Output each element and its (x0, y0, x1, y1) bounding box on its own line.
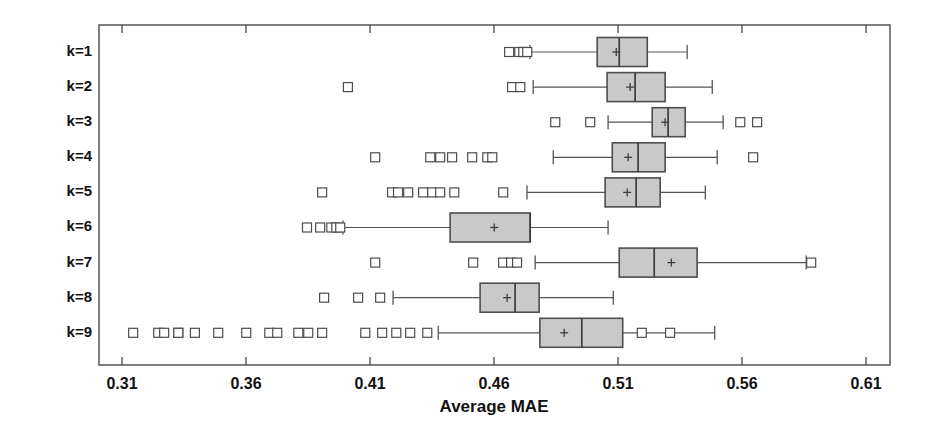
outlier-marker (160, 328, 169, 337)
boxplot-row-k5 (318, 178, 706, 207)
outlier-marker (753, 118, 762, 127)
outlier-marker (371, 153, 380, 162)
outlier-marker (343, 83, 352, 92)
outlier-marker (336, 223, 345, 232)
y-tick-label-k4: k=4 (67, 147, 93, 164)
outlier-marker (551, 118, 560, 127)
boxplot-svg: 0.310.360.410.460.510.560.61 k=1k=2k=3k=… (0, 0, 940, 431)
outlier-marker (637, 328, 646, 337)
outlier-marker (505, 48, 514, 57)
outlier-marker (354, 293, 363, 302)
y-tick-label-k8: k=8 (67, 288, 92, 305)
outlier-marker (666, 328, 675, 337)
outlier-marker (450, 188, 459, 197)
outlier-marker (304, 328, 313, 337)
x-tick-label: 0.46 (478, 375, 509, 392)
outlier-marker (436, 153, 445, 162)
outlier-marker (273, 328, 282, 337)
x-axis-title: Average MAE (440, 397, 549, 416)
boxplot-row-k7 (371, 248, 816, 277)
outlier-marker (376, 293, 385, 302)
outlier-marker (436, 188, 445, 197)
outlier-marker (361, 328, 370, 337)
outlier-marker (513, 258, 522, 267)
outlier-marker (488, 153, 497, 162)
y-tick-label-k7: k=7 (67, 253, 92, 270)
outlier-marker (174, 328, 183, 337)
outlier-marker (468, 153, 477, 162)
x-tick-label: 0.56 (726, 375, 757, 392)
outlier-marker (406, 328, 415, 337)
outlier-marker (129, 328, 138, 337)
x-tick-label: 0.41 (354, 375, 385, 392)
y-tick-label-k1: k=1 (67, 42, 92, 59)
x-tick-label: 0.61 (850, 375, 881, 392)
outlier-marker (190, 328, 199, 337)
outlier-marker (320, 293, 329, 302)
box-rect (619, 248, 697, 277)
outlier-marker (316, 223, 325, 232)
outlier-marker (404, 188, 413, 197)
outlier-marker (448, 153, 457, 162)
outlier-marker (214, 328, 223, 337)
boxplot-row-k4 (371, 143, 758, 172)
outlier-marker (749, 153, 758, 162)
outlier-marker (303, 223, 312, 232)
outlier-marker (419, 188, 428, 197)
outlier-marker (423, 328, 432, 337)
outlier-marker (394, 188, 403, 197)
outlier-marker (736, 118, 745, 127)
x-tick-label: 0.36 (230, 375, 261, 392)
y-tick-label-k5: k=5 (67, 182, 92, 199)
box-rect (605, 178, 660, 207)
box-rect (450, 213, 530, 242)
outlier-marker (499, 188, 508, 197)
outlier-marker (469, 258, 478, 267)
boxplot-row-k1 (505, 38, 688, 67)
y-tick-label-k2: k=2 (67, 77, 92, 94)
outlier-marker (586, 118, 595, 127)
boxplot-row-k9 (129, 318, 715, 347)
boxplot-row-k6 (303, 213, 609, 242)
y-axis-labels: k=1k=2k=3k=4k=5k=6k=7k=8k=9 (67, 42, 93, 340)
outlier-marker (378, 328, 387, 337)
outlier-marker (523, 48, 532, 57)
y-tick-label-k3: k=3 (67, 112, 92, 129)
outlier-marker (392, 328, 401, 337)
plot-frame-rect (99, 25, 890, 365)
boxplot-row-k2 (343, 73, 712, 102)
outlier-marker (294, 328, 303, 337)
box-rect (607, 73, 665, 102)
y-tick-label-k9: k=9 (67, 323, 92, 340)
boxplot-chart: 0.310.360.410.460.510.560.61 k=1k=2k=3k=… (0, 0, 940, 431)
outlier-marker (242, 328, 251, 337)
outlier-marker (318, 188, 327, 197)
y-tick-label-k6: k=6 (67, 217, 92, 234)
boxplot-row-k3 (551, 108, 762, 137)
outlier-marker (371, 258, 380, 267)
outlier-marker (318, 328, 327, 337)
outlier-marker (807, 258, 816, 267)
box-series (129, 38, 816, 348)
outlier-marker (516, 83, 525, 92)
plot-frame (99, 25, 890, 365)
outlier-marker (426, 153, 435, 162)
x-tick-label: 0.31 (106, 375, 137, 392)
boxplot-row-k8 (320, 283, 614, 312)
box-rect (597, 38, 647, 67)
x-tick-label: 0.51 (602, 375, 633, 392)
